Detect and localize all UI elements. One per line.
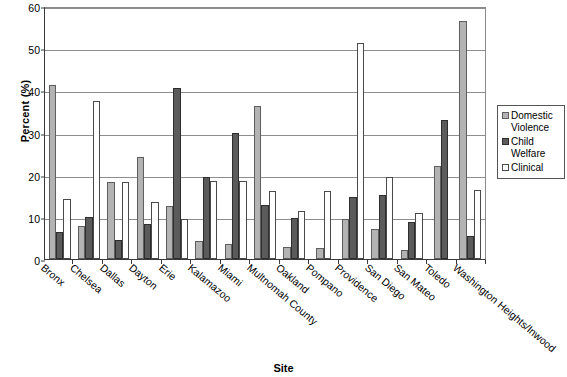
legend-item[interactable]: Child Welfare (502, 136, 561, 159)
bar (173, 88, 180, 259)
x-axis-title: Site (0, 362, 567, 374)
bar (316, 248, 323, 259)
bar (386, 177, 393, 259)
bar (151, 202, 158, 259)
bar (434, 166, 441, 259)
bar (93, 101, 100, 259)
bar (115, 240, 122, 259)
legend-item-label: Domestic Violence (511, 110, 553, 133)
bar (441, 120, 448, 259)
bar (56, 232, 63, 259)
bar (261, 205, 268, 259)
bar-group (456, 8, 485, 259)
bar (210, 181, 217, 259)
bar (298, 211, 305, 259)
bar (144, 224, 151, 259)
legend-item-label: Child Welfare (511, 136, 545, 159)
bar (291, 218, 298, 259)
bar (254, 106, 261, 259)
bar (225, 244, 232, 259)
bar-chart-figure: Percent (%) 0102030405060 BronxChelseaDa… (0, 0, 567, 377)
bar (283, 247, 290, 259)
legend-item[interactable]: Domestic Violence (502, 110, 561, 133)
plot-area: 0102030405060 (44, 7, 486, 260)
swatch-domestic-violence-icon (502, 112, 509, 119)
bar-group (133, 8, 162, 259)
bar-group (338, 8, 367, 259)
bar (467, 236, 474, 259)
x-tick-label: Erie (157, 262, 178, 282)
bar (415, 213, 422, 259)
chart-legend: Domestic ViolenceChild WelfareClinical (497, 105, 565, 179)
bar (269, 191, 276, 259)
y-tick-label: 0 (34, 255, 40, 267)
bar (49, 85, 56, 259)
bar-group (368, 8, 397, 259)
y-tick-label: 50 (28, 44, 40, 56)
bar (379, 195, 386, 260)
bar (107, 182, 114, 259)
bar (357, 43, 364, 259)
bar (122, 182, 129, 259)
bar-group (74, 8, 103, 259)
bar-group (162, 8, 191, 259)
x-tick-label: Washington Heights/Inwood (451, 262, 558, 354)
bar (324, 191, 331, 259)
x-tick-label: Bronx (39, 262, 67, 288)
bar (78, 226, 85, 259)
bar (203, 177, 210, 259)
bar (401, 250, 408, 259)
bar (371, 229, 378, 259)
bar (85, 217, 92, 259)
legend-item[interactable]: Clinical (502, 162, 561, 174)
bar (63, 199, 70, 259)
bar-series-container (45, 8, 485, 259)
bar (181, 219, 188, 259)
bar (195, 241, 202, 259)
y-tick-label: 30 (28, 129, 40, 141)
legend-item-label: Clinical (511, 162, 543, 174)
bar (408, 222, 415, 259)
bar-group (45, 8, 74, 259)
bar (239, 181, 246, 259)
bar-group (397, 8, 426, 259)
bar (459, 21, 466, 259)
bar (166, 206, 173, 259)
y-tick-label: 20 (28, 171, 40, 183)
bar-group (221, 8, 250, 259)
y-tick-label: 40 (28, 86, 40, 98)
bar (232, 133, 239, 259)
bar-group (280, 8, 309, 259)
x-axis-tick-labels: BronxChelseaDallasDaytonErieKalamazooMia… (44, 262, 486, 372)
bar-group (192, 8, 221, 259)
swatch-child-welfare-icon (502, 138, 509, 145)
swatch-clinical-icon (502, 164, 509, 171)
bar-group (426, 8, 455, 259)
bar (474, 190, 481, 259)
bar-group (104, 8, 133, 259)
y-tick-label: 10 (28, 213, 40, 225)
bar (137, 157, 144, 259)
bar-group (309, 8, 338, 259)
bar (349, 197, 356, 259)
bar (342, 219, 349, 259)
x-tick-label: Dayton (127, 262, 160, 292)
bar-group (250, 8, 279, 259)
y-tick-label: 60 (28, 2, 40, 14)
y-axis-title: Percent (%) (19, 56, 31, 166)
